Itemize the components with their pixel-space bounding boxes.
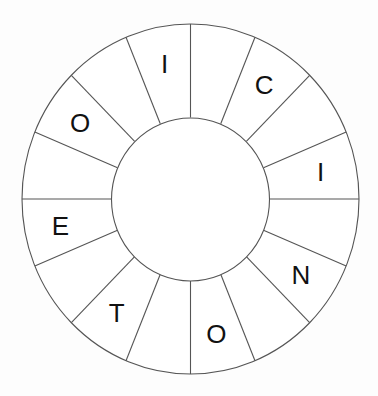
segment-letter: N [291, 260, 310, 290]
segment-letter: T [109, 298, 125, 328]
letter-wheel: IOETONIC [0, 0, 378, 396]
segment-letter: O [206, 319, 226, 349]
segment-letter: I [161, 49, 168, 79]
segment-letter: C [255, 70, 274, 100]
segment-letter: E [52, 211, 69, 241]
segment-letter: O [70, 108, 90, 138]
center-hub [112, 118, 270, 281]
segment-letter: I [317, 157, 324, 187]
